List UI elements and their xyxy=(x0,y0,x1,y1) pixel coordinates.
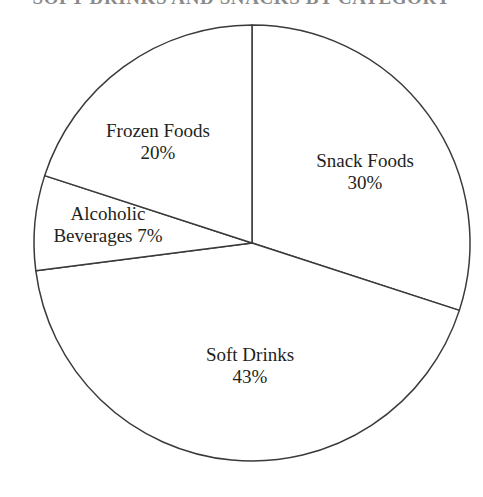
slice-label-frozen-foods: Frozen Foods 20% xyxy=(78,120,238,165)
pie-chart: SOFT DRINKS AND SNACKS BY CATEGORY Snack… xyxy=(0,0,483,497)
slice-label-frozen-foods-name: Frozen Foods xyxy=(106,120,210,141)
slice-label-soft-drinks-percent: 43% xyxy=(160,366,340,388)
slice-label-alcoholic-beverages-name-line2: Beverages xyxy=(53,225,132,246)
slice-label-alcoholic-beverages-percent: 7% xyxy=(137,225,162,246)
slice-label-soft-drinks-name: Soft Drinks xyxy=(206,344,294,365)
slice-label-snack-foods: Snack Foods 30% xyxy=(290,150,440,195)
slice-label-soft-drinks: Soft Drinks 43% xyxy=(160,344,340,389)
slice-label-alcoholic-beverages-name-line1: Alcoholic xyxy=(71,203,146,224)
slice-label-snack-foods-percent: 30% xyxy=(290,172,440,194)
slice-label-frozen-foods-percent: 20% xyxy=(78,142,238,164)
slice-label-alcoholic-beverages: Alcoholic Beverages 7% xyxy=(20,203,196,248)
pie-svg xyxy=(0,0,483,497)
slice-label-snack-foods-name: Snack Foods xyxy=(316,150,414,171)
